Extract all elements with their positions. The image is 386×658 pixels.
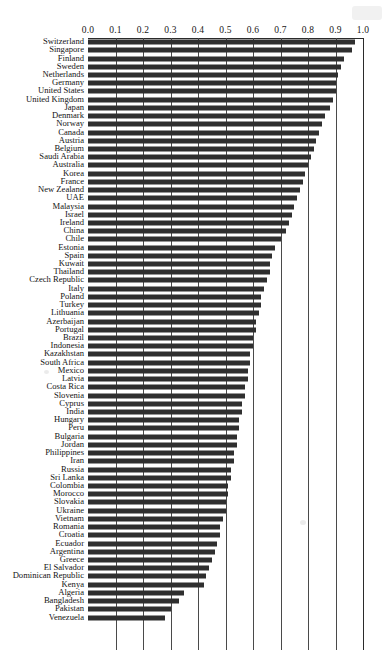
bar	[88, 278, 267, 283]
bar-row: China	[0, 227, 386, 235]
bar	[88, 607, 171, 612]
x-tick-0.9: 0.9	[329, 24, 341, 36]
bar	[88, 64, 341, 69]
bar	[88, 105, 330, 110]
bar	[88, 138, 316, 143]
bar	[88, 442, 237, 447]
x-tick-0.1: 0.1	[109, 24, 121, 36]
bar	[88, 146, 314, 151]
bar-row: Slovenia	[0, 391, 386, 399]
bar	[88, 179, 303, 184]
bar-row: Dominican Republic	[0, 572, 386, 580]
bar-row: Korea	[0, 170, 386, 178]
bar	[88, 270, 270, 275]
bar	[88, 459, 234, 464]
bar	[88, 352, 250, 357]
bar	[88, 475, 231, 480]
bar	[88, 171, 305, 176]
bar	[88, 89, 336, 94]
bar	[88, 81, 336, 86]
bar	[88, 327, 256, 332]
bar	[88, 368, 248, 373]
bar	[88, 401, 242, 406]
x-tick-0.6: 0.6	[247, 24, 259, 36]
x-tick-0.3: 0.3	[164, 24, 176, 36]
bar	[88, 196, 297, 201]
bar	[88, 40, 355, 45]
bar	[88, 336, 253, 341]
bar-row: Australia	[0, 161, 386, 169]
bar	[88, 582, 204, 587]
bar	[88, 311, 259, 316]
bar	[88, 344, 253, 349]
bar	[88, 385, 245, 390]
x-tick-0.5: 0.5	[219, 24, 231, 36]
bar	[88, 286, 264, 291]
bar	[88, 533, 220, 538]
bar-row: Hungary	[0, 416, 386, 424]
bar	[88, 303, 261, 308]
bar	[88, 237, 281, 242]
bar	[88, 434, 237, 439]
bar	[88, 451, 234, 456]
bar-row: Israel	[0, 211, 386, 219]
bar	[88, 615, 165, 620]
bar-row: Malaysia	[0, 202, 386, 210]
bar	[88, 557, 212, 562]
bar	[88, 410, 242, 415]
bar	[88, 599, 179, 604]
bar-row: Portugal	[0, 326, 386, 334]
bar-row: Italy	[0, 285, 386, 293]
bar	[88, 262, 270, 267]
bar-row: Argentina	[0, 548, 386, 556]
bar-row: Mexico	[0, 367, 386, 375]
bar-row: Venezuela	[0, 613, 386, 621]
bar	[88, 574, 206, 579]
bar-rows: SwitzerlandSingaporeFinlandSwedenNetherl…	[0, 38, 386, 650]
bar	[88, 508, 226, 513]
bar	[88, 72, 338, 77]
bar	[88, 220, 289, 225]
bar-row: New Zealand	[0, 186, 386, 194]
bar	[88, 426, 239, 431]
bar	[88, 130, 319, 135]
bar	[88, 500, 226, 505]
bar	[88, 188, 300, 193]
bar	[88, 541, 217, 546]
bar	[88, 418, 239, 423]
bar	[88, 483, 228, 488]
x-tick-1.0: 1.0	[357, 24, 369, 36]
bar	[88, 245, 275, 250]
bar	[88, 525, 220, 530]
bar-row: Estonia	[0, 244, 386, 252]
bar	[88, 377, 248, 382]
bar	[88, 492, 228, 497]
bar-row: Poland	[0, 293, 386, 301]
bar-row: Czech Republic	[0, 276, 386, 284]
bar-row: Iran	[0, 457, 386, 465]
bar	[88, 467, 231, 472]
bar	[88, 48, 352, 53]
bar	[88, 155, 311, 160]
bar	[88, 204, 294, 209]
bar	[88, 212, 292, 217]
bar-row: United Kingdom	[0, 96, 386, 104]
bar-chart: 0.00.10.20.30.40.50.60.70.80.91.0 Switze…	[0, 0, 386, 658]
x-tick-0.2: 0.2	[137, 24, 149, 36]
x-tick-0.0: 0.0	[82, 24, 94, 36]
category-label: Venezuela	[49, 613, 84, 622]
bar	[88, 122, 322, 127]
x-tick-0.7: 0.7	[274, 24, 286, 36]
bar	[88, 253, 272, 258]
bar	[88, 566, 209, 571]
bar	[88, 516, 223, 521]
scan-speckle	[352, 6, 382, 20]
bar	[88, 393, 245, 398]
bar	[88, 360, 250, 365]
bar-row: Cyprus	[0, 400, 386, 408]
bar	[88, 294, 261, 299]
bar	[88, 114, 325, 119]
bar	[88, 163, 308, 168]
x-tick-0.8: 0.8	[302, 24, 314, 36]
bar-row: Philippines	[0, 449, 386, 457]
